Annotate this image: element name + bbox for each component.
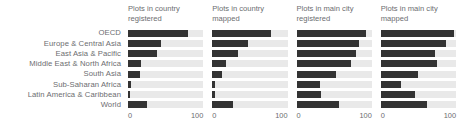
bar-row [381,49,456,59]
bar-fill [128,40,161,47]
bar-row [381,79,456,89]
x-axis: 0 100 [128,112,203,124]
bar-track [381,81,456,88]
bar-fill [381,50,435,57]
bar-fill [212,81,215,88]
bar-row [381,59,456,69]
bar-track [297,40,372,47]
bar-row [297,49,372,59]
bar-track [212,60,287,67]
bar-fill [297,101,339,108]
panel-plots-in-country-registered: Plots in country registered 0 100 [124,0,208,136]
bar-fill [128,60,141,67]
bar-row [297,79,372,89]
bar-track [128,40,203,47]
bar-track [297,81,372,88]
bar-row [381,100,456,110]
x-tick-label: 100 [275,112,287,119]
category-label: Europe & Central Asia [0,38,121,48]
category-label: World [0,100,121,110]
bar-row [212,69,287,79]
bar-track [212,40,287,47]
panel-plots-in-main-city-mapped: Plots in main city mapped 0 100 [377,0,461,136]
bar-fill [381,91,416,98]
bar-track [381,40,456,47]
bar-row [128,59,203,69]
bar-fill [212,101,233,108]
bar-fill [128,101,147,108]
bar-track [297,30,372,37]
bar-row [381,38,456,48]
bar-fill [128,71,140,78]
bar-track [381,60,456,67]
bar-track [128,71,203,78]
panel-plots-in-main-city-registered: Plots in main city registered 0 100 [293,0,377,136]
bar-track [297,91,372,98]
bar-row [212,100,287,110]
bar-fill [297,30,367,37]
bar-fill [212,60,226,67]
panel-plot-area [212,28,287,110]
bar-row [128,49,203,59]
category-label: Latin America & Caribbean [0,90,121,100]
bar-row [381,69,456,79]
small-multiples-grid: OECD Europe & Central Asia East Asia & P… [0,0,461,136]
bar-row [128,100,203,110]
x-tick-label: 0 [381,112,385,119]
category-label-list: OECD Europe & Central Asia East Asia & P… [0,28,121,110]
category-axis: OECD Europe & Central Asia East Asia & P… [0,0,124,136]
bar-row [381,28,456,38]
bar-track [212,50,287,57]
x-tick-label: 100 [444,112,456,119]
bar-fill [381,40,446,47]
bar-track [381,50,456,57]
bar-fill [297,71,337,78]
panel-title: Plots in country registered [128,4,203,23]
bar-fill [381,71,419,78]
bar-row [212,28,287,38]
bar-fill [297,81,320,88]
bar-fill [128,91,130,98]
bar-row [297,59,372,69]
bar-track [212,30,287,37]
bar-track [128,60,203,67]
bar-row [128,28,203,38]
bar-row [297,28,372,38]
bar-track [381,30,456,37]
bar-fill [297,50,356,57]
x-tick-label: 0 [212,112,216,119]
panel-plot-area [381,28,456,110]
bar-row [212,90,287,100]
bar-track [212,71,287,78]
bar-row [128,69,203,79]
bar-row [297,38,372,48]
bar-track [381,101,456,108]
bar-track [297,50,372,57]
bar-track [128,91,203,98]
bar-track [128,50,203,57]
bar-fill [128,50,157,57]
x-axis: 0 100 [212,112,287,124]
bar-track [381,71,456,78]
x-tick-label: 100 [359,112,371,119]
x-axis: 0 100 [297,112,372,124]
bar-row [381,90,456,100]
bar-row [128,38,203,48]
bar-row [297,90,372,100]
bar-row [297,69,372,79]
bar-fill [381,30,454,37]
bar-fill [297,91,322,98]
bar-fill [128,81,131,88]
bar-fill [212,30,271,37]
bar-row [128,90,203,100]
bar-fill [212,40,247,47]
panel-plots-in-country-mapped: Plots in country mapped 0 100 [208,0,292,136]
bar-row [212,49,287,59]
bar-fill [381,60,437,67]
bar-track [212,81,287,88]
bar-track [297,60,372,67]
category-label: Sub-Saharan Africa [0,79,121,89]
panel-title: Plots in main city registered [297,4,372,23]
panel-plot-area [297,28,372,110]
bar-fill [381,81,401,88]
